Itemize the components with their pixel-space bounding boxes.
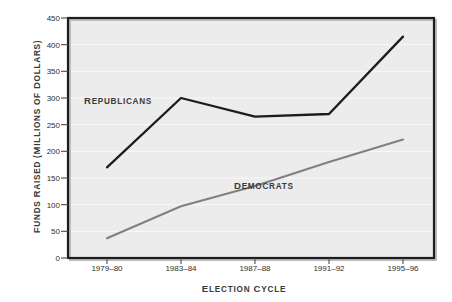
y-axis-title: FUNDS RAISED (MILLIONS OF DOLLARS) bbox=[31, 17, 42, 257]
x-tick-label: 1987–88 bbox=[220, 264, 290, 273]
series-annotation-democrats: DEMOCRATS bbox=[234, 180, 294, 191]
x-tick-label: 1995–96 bbox=[368, 264, 438, 273]
x-tick-label: 1983–84 bbox=[146, 264, 216, 273]
x-tick-label: 1979–80 bbox=[72, 264, 142, 273]
chart-figure: 0 50 100 150 200 250 300 350 400 450 197… bbox=[0, 0, 452, 302]
x-axis-tick-labels: 1979–80 1983–84 1987–88 1991–92 1995–96 bbox=[0, 0, 452, 302]
x-tick-label: 1991–92 bbox=[294, 264, 364, 273]
series-annotation-republicans: REPUBLICANS bbox=[84, 95, 152, 106]
x-axis-title: ELECTION CYCLE bbox=[0, 283, 452, 294]
